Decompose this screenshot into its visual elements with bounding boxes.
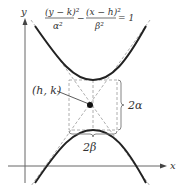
center-label: (h, k) <box>32 84 61 97</box>
equation-minus: − <box>77 13 85 23</box>
equation: (y − k)² α² − (x − h)² β² = 1 <box>45 7 134 31</box>
upper-branch <box>35 26 146 80</box>
equation-term1-denominator: α² <box>53 21 63 31</box>
equation-term2-denominator: β² <box>94 21 104 31</box>
center-leader-line <box>57 91 89 104</box>
y-axis-label: y <box>20 6 27 17</box>
equation-term1-numerator: (y − k)² <box>45 7 80 17</box>
y-axis-arrow-icon <box>23 18 28 25</box>
equation-term2-numerator: (x − h)² <box>86 7 121 17</box>
hyperbola-diagram: y x (h, k) 2α 2β (y − k)² α² − (x − h)² … <box>0 0 182 191</box>
x-axis-label: x <box>170 160 176 171</box>
vertical-span-label: 2α <box>127 99 143 112</box>
horizontal-span-label: 2β <box>82 141 96 154</box>
vertical-brace-icon <box>118 80 124 130</box>
equation-rhs: = 1 <box>118 13 134 23</box>
center-point <box>87 102 93 108</box>
lower-branch <box>35 130 146 183</box>
x-axis-arrow-icon <box>160 164 167 169</box>
